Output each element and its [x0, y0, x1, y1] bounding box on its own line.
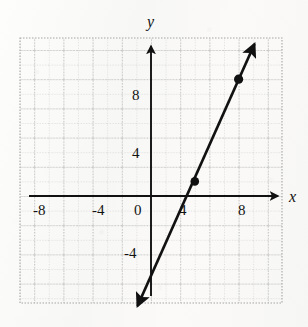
x-tick-label-4: 4	[179, 203, 187, 218]
x-axis-label: x	[289, 189, 296, 205]
y-tick-label-4: 4	[132, 146, 140, 161]
data-point-6-8	[234, 75, 243, 84]
x-tick-label-8: 8	[238, 203, 246, 218]
x-tick-label-neg4: -4	[92, 203, 105, 218]
x-tick-label-neg8: -8	[33, 203, 46, 218]
coordinate-plane-plot	[0, 0, 308, 327]
x-tick-label-origin: 0	[134, 203, 142, 218]
figure-container: y x -8 -4 0 4 8 8 4 -4	[0, 0, 308, 327]
y-tick-label-8: 8	[132, 88, 140, 103]
y-axis-label: y	[147, 14, 154, 30]
data-point-3-1	[191, 177, 200, 186]
y-tick-label-neg4: -4	[124, 246, 137, 261]
